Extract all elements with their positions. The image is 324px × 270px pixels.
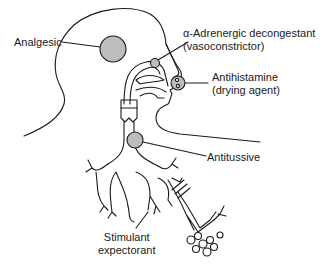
antitussive-site bbox=[127, 132, 143, 148]
label-expectorant: Stimulant expectorant bbox=[98, 231, 155, 256]
label-antitussive: Antitussive bbox=[207, 151, 260, 164]
blockade-marks bbox=[172, 180, 190, 198]
leader-analgesic bbox=[62, 42, 100, 47]
palate bbox=[136, 76, 164, 85]
trachea bbox=[108, 122, 124, 164]
label-decongestant: α-Adrenergic decongestant (vasoconstrict… bbox=[183, 27, 315, 52]
larynx bbox=[121, 100, 137, 122]
left-bronchus bbox=[86, 160, 108, 212]
alveoli bbox=[187, 232, 223, 256]
right-bronchus bbox=[158, 158, 178, 169]
label-antihistamine: Antihistamine (drying agent) bbox=[212, 71, 280, 96]
leader-antitussive bbox=[143, 142, 206, 156]
leader-expectorant bbox=[136, 212, 148, 228]
label-analgesic: Analgesic bbox=[14, 36, 62, 49]
analgesic-site bbox=[100, 36, 126, 62]
